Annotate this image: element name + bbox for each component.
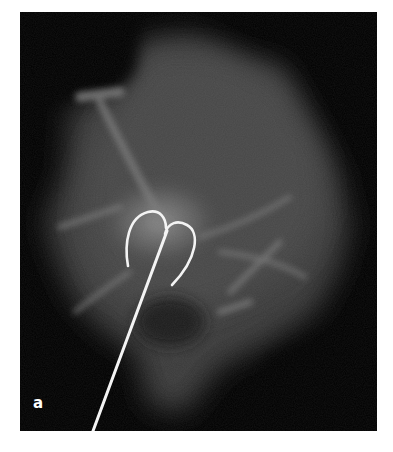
panel-label: a xyxy=(33,396,43,411)
specimen-radiograph: a xyxy=(20,12,377,431)
radiograph-image xyxy=(20,12,377,431)
tissue-mass xyxy=(20,12,377,431)
